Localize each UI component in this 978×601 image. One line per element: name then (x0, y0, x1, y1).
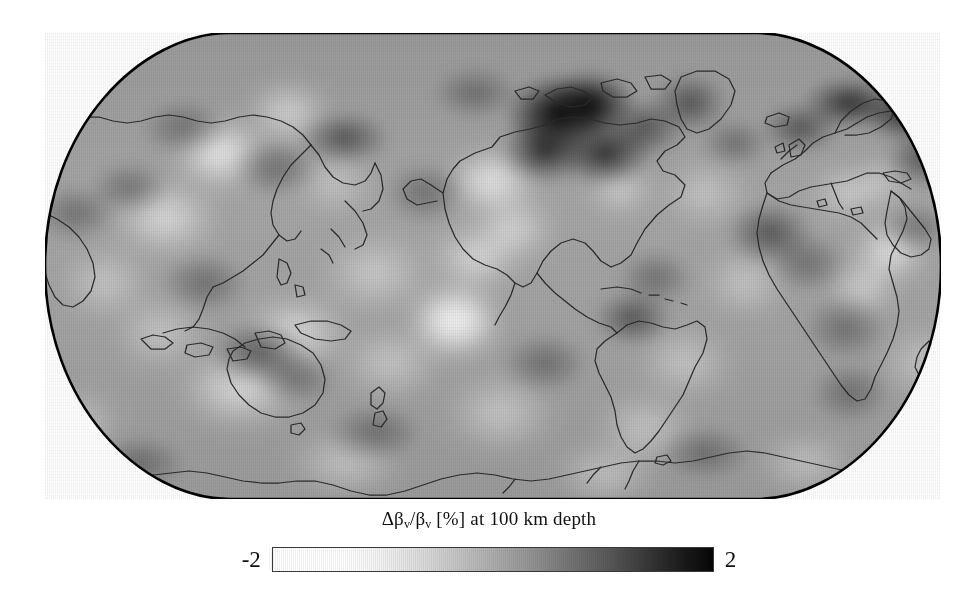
world-map-svg (45, 33, 941, 499)
caption-divider: /β (410, 508, 425, 529)
colorbar-min-label: -2 (242, 548, 261, 571)
tomography-figure: Δβv/βv [%] at 100 km depth -2 2 (0, 0, 978, 601)
tomography-field (45, 33, 941, 499)
caption-depth-text: [%] at 100 km depth (431, 508, 596, 529)
colorbar-gradient (272, 547, 714, 572)
colorbar-max-label: 2 (725, 548, 737, 571)
colorbar-row: -2 2 (0, 541, 978, 577)
caption-delta-beta: Δβ (382, 508, 404, 529)
map-caption: Δβv/βv [%] at 100 km depth (0, 509, 978, 530)
world-map-panel (45, 33, 941, 499)
